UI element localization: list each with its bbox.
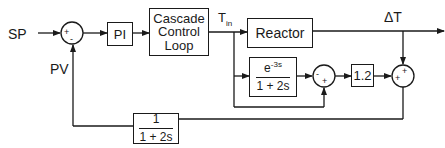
sum2-minus-sign: - (316, 70, 319, 79)
pi-controller-block: PI (107, 22, 133, 46)
inlet-temperature-label: Tin (218, 11, 232, 28)
model-numerator: e-3s (256, 61, 290, 78)
model-num-exponent: -3s (271, 60, 282, 69)
cascade-label-line2: Control (158, 25, 200, 39)
cascade-label-line3: Loop (165, 39, 194, 53)
cascade-label-line1: Cascade (153, 12, 204, 26)
delta-t-label: ΔT (384, 10, 402, 24)
sum1-minus-sign: - (70, 35, 73, 44)
sum3-plus-top-sign: + (402, 67, 407, 76)
sum3-plus-left-sign: + (395, 74, 400, 83)
filter-numerator: 1 (139, 113, 173, 129)
pi-label: PI (114, 27, 126, 42)
model-denominator: 1 + 2s (256, 78, 289, 93)
model-num-base: e (264, 61, 271, 75)
process-variable-label: PV (50, 62, 69, 76)
setpoint-label: SP (8, 27, 27, 41)
inlet-temp-base: T (218, 10, 226, 25)
sum1-plus-sign: + (64, 28, 69, 37)
gain-block: 1.2 (351, 64, 374, 87)
reactor-block: Reactor (247, 18, 313, 48)
cascade-control-loop-block: Cascade Control Loop (149, 8, 209, 56)
filter-denominator: 1 + 2s (139, 129, 172, 144)
gain-label: 1.2 (353, 68, 371, 83)
feedback-filter-block: 1 1 + 2s (133, 113, 179, 144)
inlet-temp-subscript: in (226, 19, 232, 28)
model-block: e-3s 1 + 2s (249, 57, 297, 97)
sum2-plus-sign: + (322, 77, 327, 86)
reactor-label: Reactor (255, 25, 304, 41)
